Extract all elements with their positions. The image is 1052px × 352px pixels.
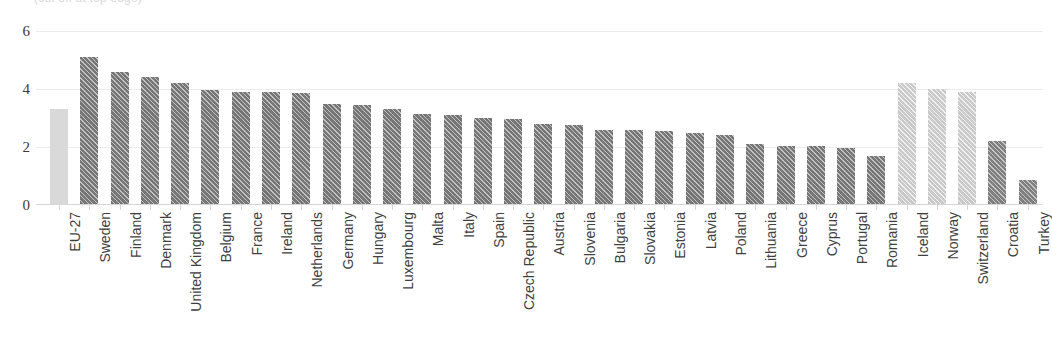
bar [171,83,189,205]
x-axis-label-slot: Estonia [649,212,679,342]
x-axis-label-slot: Luxembourg [377,212,407,342]
x-axis-tick [377,205,407,210]
bar-slot [74,31,104,205]
x-axis-tick [74,205,104,210]
bar-slot [861,31,891,205]
bar [837,148,855,205]
bar [595,130,613,205]
bar-slot [982,31,1012,205]
x-axis-tick [286,205,316,210]
x-axis-tick [528,205,558,210]
x-axis-label-slot: Czech Republic [498,212,528,342]
x-axis-tick [256,205,286,210]
x-axis-category-label: Turkey [1036,212,1052,254]
x-axis-label-slot: Finland [105,212,135,342]
x-axis-ticks [36,205,1043,210]
bar [262,92,280,205]
bar [141,77,159,205]
bar-slot [226,31,256,205]
bar-slot [891,31,921,205]
x-axis-tick [437,205,467,210]
x-axis-label-slot: Italy [437,212,467,342]
bar-slot [498,31,528,205]
bar-slot [105,31,135,205]
bar-slot [135,31,165,205]
bar [1019,180,1037,205]
x-axis-tick [468,205,498,210]
bar [686,133,704,206]
bar-slot [922,31,952,205]
x-axis-tick [407,205,437,210]
x-axis-label-slot: Slovenia [559,212,589,342]
bar [958,92,976,205]
x-axis-tick [680,205,710,210]
bar [474,118,492,205]
x-axis-label-slot: Greece [770,212,800,342]
x-axis-tick [619,205,649,210]
bar [746,144,764,205]
x-axis-label-slot: Poland [710,212,740,342]
x-axis-label-slot: Cyprus [801,212,831,342]
bar-slot [559,31,589,205]
x-axis-tick [226,205,256,210]
x-axis-label-slot: Slovakia [619,212,649,342]
bar-slot [1013,31,1043,205]
x-axis-tick [44,205,74,210]
bar-slot [377,31,407,205]
bar-slot [740,31,770,205]
x-axis-tick [165,205,195,210]
bar [50,109,68,205]
bar [232,92,250,205]
bar-slot [165,31,195,205]
bar-slot [44,31,74,205]
x-axis-tick [861,205,891,210]
x-axis-label-slot: EU-27 [44,212,74,342]
x-axis-tick [710,205,740,210]
bar [534,124,552,205]
x-axis-tick [195,205,225,210]
bar [928,89,946,205]
x-axis-label-slot: Ireland [256,212,286,342]
x-axis-tick [1013,205,1043,210]
bar [898,83,916,205]
x-axis-label-slot: Norway [922,212,952,342]
x-axis-label-slot: Turkey [1013,212,1043,342]
x-axis-tick [740,205,770,210]
x-axis-label-slot: Romania [861,212,891,342]
bar [807,146,825,205]
x-axis-label-slot: Germany [316,212,346,342]
bar [625,130,643,205]
x-axis-tick [952,205,982,210]
y-axis-tick-label: 4 [23,81,31,98]
x-axis-tick [105,205,135,210]
x-axis-label-slot: Malta [407,212,437,342]
bar-slot [468,31,498,205]
x-axis-tick [801,205,831,210]
bar-series [36,31,1043,205]
x-axis-tick [649,205,679,210]
chart-title-cutoff: (cut off at top edge) [34,0,142,5]
bar [777,146,795,205]
x-axis-label-slot: Denmark [135,212,165,342]
bar-slot [952,31,982,205]
bar-slot [770,31,800,205]
bar-slot [619,31,649,205]
plot-area [36,31,1043,205]
bar [80,57,98,205]
bar [565,125,583,205]
x-axis-label-slot: Sweden [74,212,104,342]
x-axis-tick [135,205,165,210]
y-axis-tick-label: 6 [23,23,31,40]
y-axis-tick-label: 2 [23,139,31,156]
bar-slot [680,31,710,205]
bar [716,135,734,205]
bar-slot [710,31,740,205]
bar [504,119,522,205]
bar [292,93,310,205]
x-axis-tick [831,205,861,210]
x-axis-label-slot: Lithuania [740,212,770,342]
bar [201,90,219,205]
bar-slot [437,31,467,205]
bar-slot [347,31,377,205]
